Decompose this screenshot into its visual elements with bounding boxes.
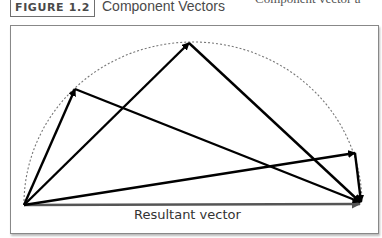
component-vector-1b	[75, 89, 360, 202]
component-vector-3b	[355, 153, 361, 202]
dotted-arc	[24, 42, 362, 205]
component-vector-1a	[24, 89, 75, 205]
resultant-vector	[24, 204, 360, 205]
vector-diagram	[0, 0, 382, 238]
resultant-vector-label: Resultant vector	[134, 207, 241, 222]
component-vector-3a	[24, 153, 355, 205]
component-vector-2b	[189, 43, 360, 202]
